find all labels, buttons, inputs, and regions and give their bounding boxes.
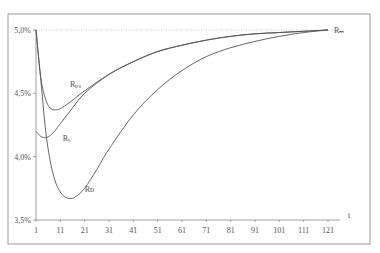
x-tick-label: 61 [178, 226, 186, 235]
y-tick-label: 4,5% [14, 89, 31, 98]
x-tick-label: 11 [56, 226, 64, 235]
x-tick-label: 101 [273, 226, 285, 235]
label-r-v: Rᵥ [63, 134, 71, 143]
x-tick-label: 71 [202, 226, 210, 235]
chart: 3,5%4,0%4,5%5,0%111213141516171819110111… [0, 0, 380, 253]
x-tick-label: 1 [34, 226, 38, 235]
chart-frame [8, 14, 370, 244]
x-tick-label: 31 [105, 226, 113, 235]
label-r-pu: Rₚᵤ [70, 80, 81, 89]
x-tick-label: 91 [251, 226, 259, 235]
y-tick-label: 5,0% [14, 26, 31, 35]
label-r-d: Rᴅ [85, 185, 95, 194]
x-tick-label: 121 [322, 226, 334, 235]
x-tick-label: 81 [227, 226, 235, 235]
label-end: Rₘ [334, 26, 344, 35]
y-tick-label: 3,5% [14, 216, 31, 225]
x-tick-label: 111 [298, 226, 309, 235]
x-tick-label: 21 [81, 226, 89, 235]
x-tick-label: 51 [154, 226, 162, 235]
y-tick-label: 4,0% [14, 153, 31, 162]
x-tick-label: 41 [129, 226, 137, 235]
